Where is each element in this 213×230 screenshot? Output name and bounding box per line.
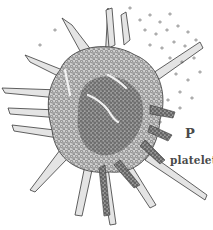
platelet-illustration: [0, 0, 213, 230]
label-platelet: platelet: [170, 154, 213, 166]
label-letter-p: P: [185, 126, 195, 141]
